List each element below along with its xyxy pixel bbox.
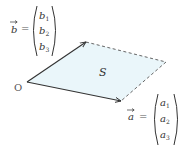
parallelogram-diagram: O S b = b1 b2 b3 a = a1 a2 a3 xyxy=(0,0,192,148)
origin-label: O xyxy=(14,82,22,93)
left-paren-icon xyxy=(34,6,38,56)
vector-b-definition: b = b1 b2 b3 xyxy=(10,6,56,56)
vector-a-symbol: a xyxy=(128,111,134,122)
vector-b-component-2: b2 xyxy=(39,25,49,37)
vector-b-component-3: b3 xyxy=(39,41,49,53)
right-paren-icon xyxy=(174,94,178,145)
vector-a-component-1: a1 xyxy=(160,97,170,109)
vector-b-equals: = xyxy=(21,23,29,34)
right-paren-icon xyxy=(52,6,56,56)
vector-a-definition: a = a1 a2 a3 xyxy=(127,94,178,145)
area-label: S xyxy=(99,66,107,79)
vector-a-component-3: a3 xyxy=(160,129,170,141)
vector-a-component-2: a2 xyxy=(160,113,170,125)
left-paren-icon xyxy=(155,94,159,145)
vector-b-symbol: b xyxy=(11,24,17,35)
vector-a-equals: = xyxy=(139,111,147,122)
vector-b-component-1: b1 xyxy=(39,10,49,22)
